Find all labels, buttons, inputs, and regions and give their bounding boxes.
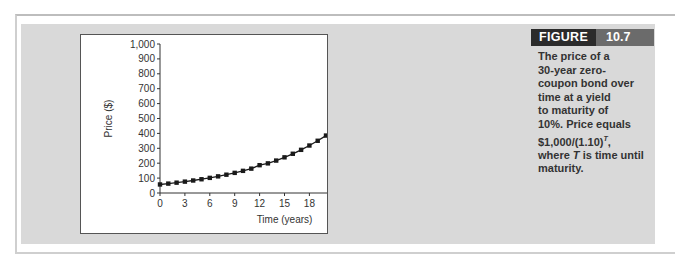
y-tick-label: 200 bbox=[138, 158, 155, 169]
x-tick-label: 0 bbox=[157, 198, 163, 209]
data-point-marker bbox=[307, 143, 311, 147]
chart-box: 01002003004005006007008009001,0000369121… bbox=[80, 34, 328, 234]
y-tick-label: 600 bbox=[138, 98, 155, 109]
data-point-marker bbox=[249, 166, 253, 170]
caption-where-var: T bbox=[573, 149, 580, 161]
data-point-marker bbox=[291, 152, 295, 156]
caption-line: time at a yield bbox=[538, 91, 656, 105]
caption-line: to maturity of bbox=[538, 104, 656, 118]
y-axis-label: Price ($) bbox=[103, 100, 114, 138]
data-point-marker bbox=[174, 180, 178, 184]
caption-where-prefix: where bbox=[538, 149, 573, 161]
caption-line: 30-year zero- bbox=[538, 64, 656, 78]
y-tick-label: 1,000 bbox=[130, 39, 155, 50]
data-point-marker bbox=[224, 172, 228, 176]
data-point-marker bbox=[266, 161, 270, 165]
y-tick-label: 900 bbox=[138, 53, 155, 64]
x-tick-label: 9 bbox=[232, 198, 238, 209]
caption-comma: , bbox=[608, 135, 611, 147]
figure-label: FIGURE 10.7 bbox=[531, 29, 654, 46]
data-point-marker bbox=[241, 169, 245, 173]
y-tick-label: 100 bbox=[138, 173, 155, 184]
caption-formula: $1,000/(1.10) bbox=[538, 135, 603, 147]
x-tick-label: 3 bbox=[182, 198, 188, 209]
data-point-marker bbox=[216, 174, 220, 178]
data-point-marker bbox=[158, 182, 162, 186]
data-point-marker bbox=[316, 139, 320, 143]
data-point-marker bbox=[257, 163, 261, 167]
data-point-marker bbox=[299, 148, 303, 152]
data-point-marker bbox=[166, 181, 170, 185]
caption-line: coupon bond over bbox=[538, 77, 656, 91]
line-chart: 01002003004005006007008009001,0000369121… bbox=[81, 35, 327, 233]
y-tick-label: 300 bbox=[138, 143, 155, 154]
x-axis-label: Time (years) bbox=[257, 214, 313, 225]
y-tick-label: 400 bbox=[138, 128, 155, 139]
caption-line: The price of a bbox=[538, 50, 656, 64]
price-line bbox=[160, 44, 327, 185]
data-point-marker bbox=[191, 178, 195, 182]
caption-formula-line: $1,000/(1.10)T, bbox=[538, 132, 656, 149]
data-point-marker bbox=[183, 179, 187, 183]
figure-number: 10.7 bbox=[596, 29, 654, 46]
data-point-marker bbox=[208, 176, 212, 180]
y-tick-label: 700 bbox=[138, 83, 155, 94]
y-tick-label: 0 bbox=[149, 188, 155, 199]
x-tick-label: 18 bbox=[304, 198, 316, 209]
figure-word: FIGURE bbox=[531, 29, 596, 46]
y-tick-label: 500 bbox=[138, 113, 155, 124]
caption-where-suffix: is time until bbox=[580, 149, 644, 161]
caption-where-line: where T is time until bbox=[538, 149, 656, 163]
data-point-marker bbox=[233, 171, 237, 175]
x-tick-label: 12 bbox=[254, 198, 266, 209]
data-point-marker bbox=[282, 155, 286, 159]
x-tick-label: 6 bbox=[207, 198, 213, 209]
x-tick-label: 15 bbox=[279, 198, 291, 209]
data-point-marker bbox=[199, 177, 203, 181]
data-point-marker bbox=[324, 133, 327, 137]
data-point-marker bbox=[274, 158, 278, 162]
y-tick-label: 800 bbox=[138, 68, 155, 79]
caption-line: 10%. Price equals bbox=[538, 118, 656, 132]
caption-line: maturity. bbox=[538, 162, 656, 176]
figure-caption: The price of a 30-year zero- coupon bond… bbox=[538, 50, 656, 176]
